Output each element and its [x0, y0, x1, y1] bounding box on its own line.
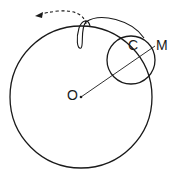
label-C: C — [128, 37, 138, 53]
dashed-arrow-path — [40, 11, 86, 24]
label-O: O — [67, 87, 78, 103]
label-M: M — [156, 37, 168, 53]
radius-line-OM — [81, 46, 155, 97]
arrow-head-icon — [35, 12, 43, 18]
diagram-svg: O C M — [0, 0, 181, 176]
epicycloid-diagram: O C M — [0, 0, 181, 176]
center-point-O — [80, 96, 83, 99]
